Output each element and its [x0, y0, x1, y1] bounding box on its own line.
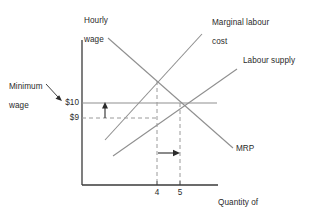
labour-supply-curve — [113, 69, 237, 156]
x-tick-label-5: 5 — [172, 188, 188, 198]
minimum-wage-callout-label: Minimum wage — [9, 72, 43, 110]
mlc-label-line1: Marginal labour — [212, 18, 269, 27]
y-axis-title: Hourly wage — [84, 6, 108, 44]
marginal-labour-cost-label: Marginal labour cost — [212, 8, 269, 46]
economics-diagram: Hourly wage Minimum wage Marginal labour… — [0, 0, 316, 213]
y-tick-label-10: $10 — [40, 98, 79, 108]
y-axis-title-line1: Hourly — [84, 16, 108, 25]
x-axis-title-line1: Quantity of — [218, 198, 258, 207]
employment-increase-arrow — [158, 150, 180, 156]
minimum-wage-label-line1: Minimum — [9, 82, 43, 91]
x-tick-label-4: 4 — [149, 188, 165, 198]
y-tick-label-9: $9 — [40, 113, 79, 123]
mrp-curve — [108, 38, 233, 148]
minimum-wage-label-line2: wage — [9, 101, 29, 110]
mrp-label: MRP — [236, 144, 254, 154]
marginal-labour-cost-curve — [105, 34, 202, 140]
y-axis-title-line2: wage — [84, 35, 104, 44]
wage-increase-arrow — [102, 102, 108, 118]
mlc-label-line2: cost — [212, 37, 227, 46]
x-axis-title: Quantity of labour — [218, 188, 258, 213]
labour-supply-label: Labour supply — [243, 56, 295, 66]
